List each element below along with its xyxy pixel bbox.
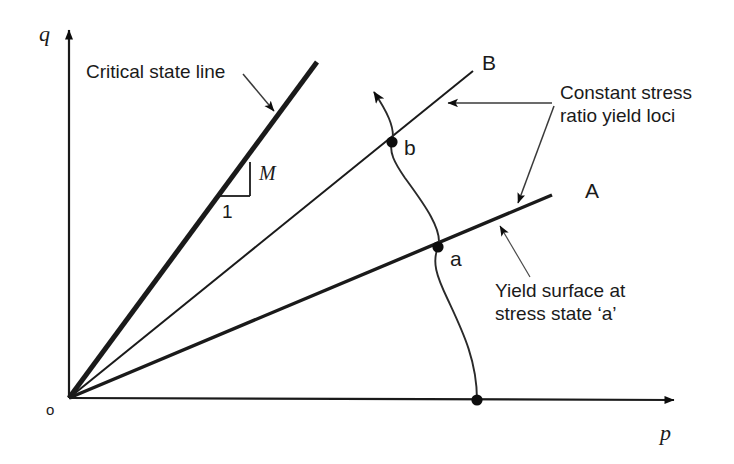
yield-surface-label-line1: Yield surface at xyxy=(495,280,626,301)
diagram-canvas: q p o Critical state line M 1 B A b a Co… xyxy=(0,0,734,464)
slope-run-label: 1 xyxy=(222,201,233,222)
origin-label: o xyxy=(46,401,54,418)
p-axis xyxy=(69,398,674,400)
point-a-label: a xyxy=(450,247,462,270)
point-b-label: b xyxy=(404,136,416,159)
constant-stress-ratio-label-line1: Constant stress xyxy=(560,82,692,103)
marker-point-a xyxy=(432,241,443,252)
constant-stress-ratio-label-line2: ratio yield loci xyxy=(560,105,675,126)
critical-state-line-label: Critical state line xyxy=(86,61,225,82)
p-axis-label: p xyxy=(658,420,671,445)
leader-critical-state-line xyxy=(243,74,274,111)
leader-yield-surface xyxy=(500,226,530,277)
marker-point-b xyxy=(386,136,397,147)
marker-point-p-axis xyxy=(471,394,482,405)
line-a-label: A xyxy=(585,179,599,202)
leader-lines-group xyxy=(243,74,554,277)
line-b-label: B xyxy=(482,51,496,74)
labels-group: q p o Critical state line M 1 B A b a Co… xyxy=(39,21,692,445)
slope-m-label: M xyxy=(258,162,277,184)
radial-lines-group xyxy=(69,62,552,398)
point-markers-group xyxy=(386,136,482,405)
q-axis-label: q xyxy=(39,21,50,46)
line-b xyxy=(69,71,473,398)
leader-constant-stress-ratio-a xyxy=(518,106,554,203)
yield-surface-label-line2: stress state ‘a’ xyxy=(495,303,616,324)
stress-path-diagram: q p o Critical state line M 1 B A b a Co… xyxy=(0,0,734,464)
